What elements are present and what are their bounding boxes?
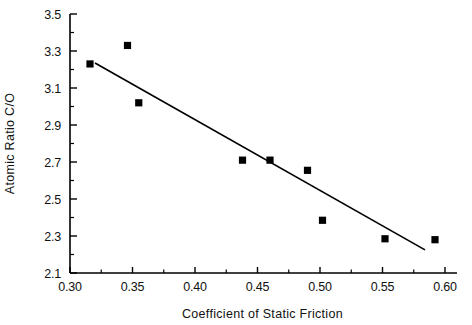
data-point-marker bbox=[319, 217, 326, 224]
x-tick-label: 0.35 bbox=[121, 280, 145, 294]
data-point-marker bbox=[266, 157, 273, 164]
data-point-marker bbox=[86, 60, 93, 67]
x-tick-label: 0.50 bbox=[308, 280, 332, 294]
data-point-marker bbox=[304, 167, 311, 174]
data-point-marker bbox=[135, 99, 142, 106]
x-tick-label: 0.45 bbox=[246, 280, 270, 294]
y-tick-label: 3.3 bbox=[44, 45, 61, 59]
x-tick-label: 0.60 bbox=[433, 280, 457, 294]
x-tick-label: 0.40 bbox=[183, 280, 207, 294]
y-tick-label: 2.1 bbox=[44, 267, 61, 281]
chart-figure: 0.300.350.400.450.500.550.603.53.33.12.9… bbox=[0, 0, 472, 325]
y-tick-label: 2.5 bbox=[44, 193, 61, 207]
y-tick-label: 2.3 bbox=[44, 230, 61, 244]
data-point-marker bbox=[239, 157, 246, 164]
y-tick-label: 2.7 bbox=[44, 156, 61, 170]
y-tick-label: 3.1 bbox=[44, 82, 61, 96]
trend-line bbox=[95, 63, 425, 250]
data-point-marker bbox=[124, 42, 131, 49]
x-axis-title: Coefficient of Static Friction bbox=[182, 307, 343, 321]
data-point-marker bbox=[381, 235, 388, 242]
x-tick-label: 0.55 bbox=[371, 280, 395, 294]
y-tick-label: 3.5 bbox=[44, 8, 61, 22]
y-axis-title: Atomic Ratio C/O bbox=[3, 93, 17, 194]
scatter-plot-svg: 0.300.350.400.450.500.550.603.53.33.12.9… bbox=[0, 0, 472, 325]
data-point-marker bbox=[431, 236, 438, 243]
y-tick-label: 2.9 bbox=[44, 119, 61, 133]
x-tick-label: 0.30 bbox=[58, 280, 82, 294]
